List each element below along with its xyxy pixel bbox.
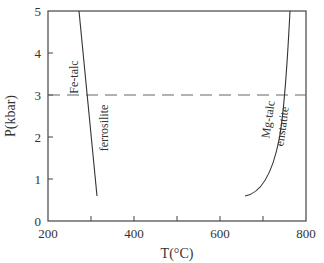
y-tick-2: 2	[35, 130, 42, 145]
x-axis-ticks	[91, 216, 263, 221]
phase-diagram: 5 4 3 2 1 0 200 400 600 800 T(°C) P(kbar…	[0, 0, 324, 263]
y-tick-1: 1	[35, 172, 42, 187]
x-axis-title: T(°C)	[161, 246, 194, 262]
y-axis-ticks	[48, 53, 53, 179]
label-ferrosilite: ferrosilite	[97, 105, 111, 152]
y-axis-title: P(kbar)	[3, 95, 19, 137]
x-tick-200: 200	[38, 226, 58, 241]
x-tick-labels: 200 400 600 800	[38, 226, 316, 241]
fe-talc-ferrosilite-curve	[79, 11, 97, 196]
x-tick-400: 400	[124, 226, 144, 241]
y-tick-5: 5	[35, 4, 42, 19]
y-tick-4: 4	[35, 46, 42, 61]
y-tick-labels: 5 4 3 2 1 0	[35, 4, 42, 229]
x-tick-800: 800	[296, 226, 316, 241]
x-tick-600: 600	[210, 226, 230, 241]
y-tick-3: 3	[35, 88, 42, 103]
label-fe-talc: Fe-talc	[67, 60, 81, 93]
